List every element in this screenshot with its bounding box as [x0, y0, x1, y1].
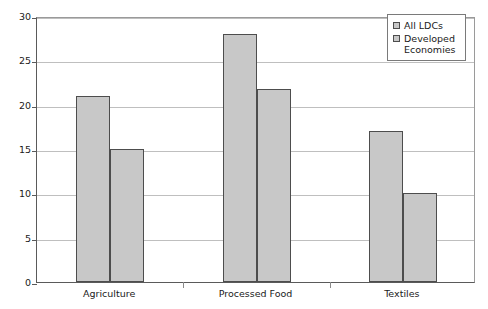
x-axis-label: Textiles — [384, 289, 419, 299]
bar — [403, 193, 437, 282]
bar — [223, 34, 257, 282]
x-axis-label: Agriculture — [83, 289, 135, 299]
bar — [76, 96, 110, 282]
legend-item[interactable]: Developed Economies — [393, 33, 460, 55]
y-axis-tick — [32, 62, 37, 63]
bar — [110, 149, 144, 282]
legend-label: All LDCs — [404, 20, 443, 31]
bar-chart: 051015202530 AgricultureProcessed FoodTe… — [0, 0, 488, 309]
y-axis-tick — [32, 240, 37, 241]
y-axis-label: 25 — [5, 57, 31, 67]
y-axis-label: 20 — [5, 101, 31, 111]
x-axis-label: Processed Food — [219, 289, 293, 299]
y-axis-tick — [32, 195, 37, 196]
y-axis-label: 30 — [5, 12, 31, 22]
y-axis-tick — [32, 284, 37, 285]
legend-swatch-icon — [393, 35, 400, 42]
y-axis-tick — [32, 18, 37, 19]
y-axis-label: 5 — [5, 234, 31, 244]
bar — [257, 89, 291, 282]
y-axis-tick — [32, 107, 37, 108]
bar — [369, 131, 403, 282]
y-axis-label: 15 — [5, 145, 31, 155]
y-axis-label: 0 — [5, 278, 31, 288]
y-axis: 051015202530 — [0, 17, 31, 283]
legend-label: Developed Economies — [404, 33, 460, 55]
x-axis-tick — [183, 282, 184, 288]
y-axis-tick — [32, 151, 37, 152]
chart-legend: All LDCsDeveloped Economies — [387, 14, 466, 61]
legend-item[interactable]: All LDCs — [393, 20, 460, 31]
legend-swatch-icon — [393, 22, 400, 29]
x-axis-tick — [330, 282, 331, 288]
y-axis-label: 10 — [5, 190, 31, 200]
